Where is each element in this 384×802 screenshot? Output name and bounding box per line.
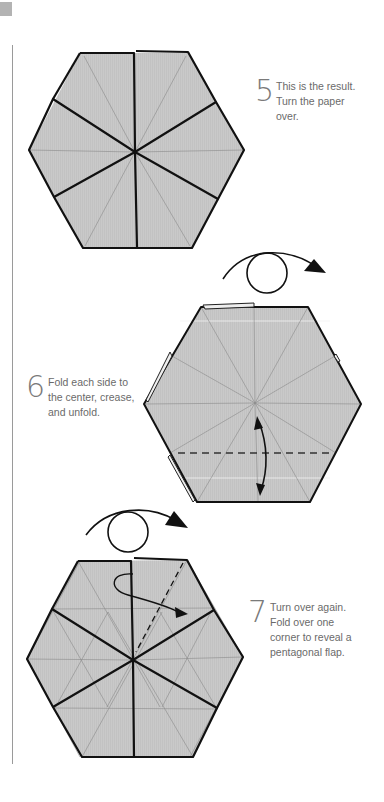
step-5: 5 This is the result. Turn the paper ove… bbox=[255, 76, 375, 136]
step-7-hexagon bbox=[27, 558, 243, 757]
step-number: 7 bbox=[248, 597, 267, 627]
step-7: 7 Turn over again. Fold over one corner … bbox=[248, 597, 378, 667]
turn-over-arrow-icon bbox=[223, 253, 326, 293]
step-number: 6 bbox=[26, 372, 45, 402]
step-instruction: Fold each side to the center, crease, an… bbox=[48, 375, 134, 420]
step-5-hexagon bbox=[29, 51, 244, 248]
step-6: 6 Fold each side to the center, crease, … bbox=[26, 372, 146, 432]
turn-over-arrow-icon bbox=[86, 510, 188, 552]
step-6-hexagon bbox=[144, 303, 361, 502]
step-instruction: This is the result. Turn the paper over. bbox=[276, 79, 355, 124]
step-number: 5 bbox=[255, 76, 274, 106]
step-instruction: Turn over again. Fold over one corner to… bbox=[270, 600, 352, 660]
